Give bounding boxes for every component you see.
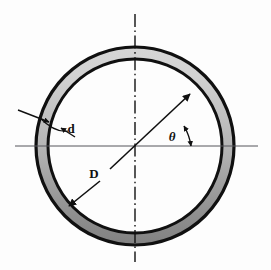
wall-thickness-label: d bbox=[67, 121, 75, 136]
diameter-label: D bbox=[89, 166, 98, 181]
diagram-canvas: d D θ bbox=[0, 0, 271, 270]
annulus-diagram: d D θ bbox=[0, 0, 271, 270]
angle-label: θ bbox=[169, 129, 176, 144]
